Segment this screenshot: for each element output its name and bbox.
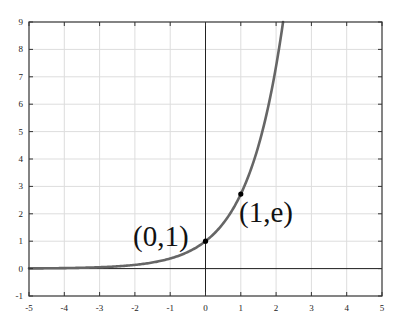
y-tick-label: 1	[19, 236, 24, 246]
y-tick-label: 3	[19, 181, 24, 191]
x-tick-label: -3	[96, 303, 104, 313]
x-tick-label: -5	[25, 303, 33, 313]
x-tick-labels: -5-4-3-2-1012345	[25, 303, 385, 313]
x-tick-label: 1	[239, 303, 244, 313]
y-tick-label: 8	[19, 44, 24, 54]
x-tick-label: 0	[203, 303, 208, 313]
x-tick-label: -1	[166, 303, 174, 313]
annotation-origin-point: (0,1)	[133, 220, 189, 253]
y-tick-label: 2	[19, 209, 24, 219]
point-marker	[203, 239, 208, 244]
y-tick-label: 5	[19, 127, 24, 137]
annotation-e-point: (1,e)	[239, 196, 293, 229]
x-tick-label: 5	[380, 303, 385, 313]
exp-chart: -5-4-3-2-1012345 -10123456789 (0,1) (1,e…	[0, 0, 400, 327]
y-tick-label: -1	[16, 291, 24, 301]
x-tick-label: 4	[344, 303, 349, 313]
x-tick-label: 3	[309, 303, 314, 313]
x-tick-label: -2	[131, 303, 139, 313]
y-tick-label: 9	[19, 17, 24, 27]
x-tick-label: -4	[61, 303, 69, 313]
y-tick-label: 7	[19, 72, 24, 82]
y-tick-label: 0	[19, 264, 24, 274]
y-tick-label: 4	[19, 154, 24, 164]
y-tick-label: 6	[19, 99, 24, 109]
x-tick-label: 2	[274, 303, 279, 313]
y-tick-labels: -10123456789	[16, 17, 24, 301]
